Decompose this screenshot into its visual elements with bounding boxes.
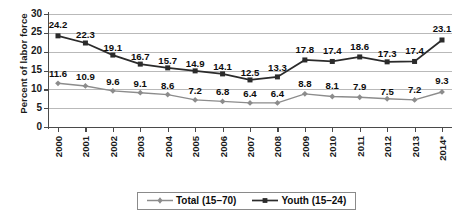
x-tick-mark: [140, 127, 141, 132]
x-tick-mark: [250, 127, 251, 132]
y-tick-label: 25: [12, 26, 42, 37]
x-tick-label: 2007: [245, 136, 256, 182]
x-tick-label: 2014*: [437, 136, 448, 182]
x-tick-mark: [195, 127, 196, 132]
y-tick-label: 5: [12, 102, 42, 113]
value-label: 6.4: [262, 88, 292, 99]
unemployment-rate-line-chart: Percent of labor force 051015202530 2000…: [0, 0, 460, 218]
value-label: 9.6: [98, 76, 128, 87]
value-label: 15.7: [153, 55, 183, 66]
value-label: 17.4: [400, 45, 430, 56]
x-tick-label: 2008: [272, 136, 283, 182]
x-tick-label: 2011: [355, 136, 366, 182]
x-tick-mark: [168, 127, 169, 132]
x-tick-mark: [332, 127, 333, 132]
y-tick-label: 30: [12, 8, 42, 19]
value-label: 17.3: [372, 48, 402, 59]
value-label: 8.1: [317, 80, 347, 91]
value-label: 9.3: [427, 75, 457, 86]
value-label: 7.2: [400, 84, 430, 95]
x-tick-mark: [223, 127, 224, 132]
legend-item-total[interactable]: Total (15–70): [147, 195, 236, 206]
x-tick-label: 2006: [218, 136, 229, 182]
legend-item-youth[interactable]: Youth (15–24): [252, 195, 346, 206]
value-label: 14.1: [208, 61, 238, 72]
y-tick-label: 20: [12, 45, 42, 56]
value-label: 18.6: [345, 41, 375, 52]
value-label: 19.1: [98, 42, 128, 53]
chart-legend: Total (15–70) Youth (15–24): [137, 192, 356, 210]
y-tick-label: 10: [12, 83, 42, 94]
x-tick-label: 2005: [190, 136, 201, 182]
x-tick-mark: [387, 127, 388, 132]
value-label: 7.5: [372, 86, 402, 97]
x-tick-label: 2000: [53, 136, 64, 182]
x-tick-label: 2013: [410, 136, 421, 182]
value-label: 8.6: [153, 80, 183, 91]
value-label: 23.1: [427, 23, 457, 34]
value-label: 14.9: [180, 58, 210, 69]
value-label: 8.8: [290, 78, 320, 89]
x-tick-label: 2001: [80, 136, 91, 182]
value-label: 16.7: [125, 51, 155, 62]
y-tick-label: 15: [12, 64, 42, 75]
value-label: 12.5: [235, 67, 265, 78]
value-label: 24.2: [43, 19, 73, 30]
value-label: 10.9: [70, 71, 100, 82]
x-tick-mark: [85, 127, 86, 132]
value-label: 6.8: [208, 86, 238, 97]
gridline: [48, 14, 452, 15]
value-label: 9.1: [125, 78, 155, 89]
x-tick-label: 2002: [108, 136, 119, 182]
value-label: 17.4: [317, 45, 347, 56]
y-tick-label: 0: [12, 121, 42, 132]
value-label: 22.3: [70, 29, 100, 40]
value-label: 17.8: [290, 44, 320, 55]
legend-marker-diamond-icon: [147, 195, 173, 206]
x-tick-label: 2009: [300, 136, 311, 182]
value-label: 13.3: [262, 62, 292, 73]
value-label: 6.4: [235, 88, 265, 99]
x-tick-mark: [415, 127, 416, 132]
gridline: [48, 33, 452, 34]
value-label: 7.9: [345, 81, 375, 92]
x-tick-mark: [442, 127, 443, 132]
x-tick-mark: [360, 127, 361, 132]
x-tick-mark: [58, 127, 59, 132]
gridline: [48, 108, 452, 109]
x-tick-label: 2003: [135, 136, 146, 182]
value-label: 7.2: [180, 85, 210, 96]
x-tick-label: 2010: [327, 136, 338, 182]
x-tick-mark: [277, 127, 278, 132]
x-tick-mark: [113, 127, 114, 132]
legend-marker-square-icon: [252, 195, 278, 206]
x-tick-label: 2004: [163, 136, 174, 182]
x-tick-label: 2012: [382, 136, 393, 182]
x-tick-mark: [305, 127, 306, 132]
legend-label-youth: Youth (15–24): [281, 195, 346, 206]
value-label: 11.6: [43, 68, 73, 79]
legend-label-total: Total (15–70): [176, 195, 236, 206]
